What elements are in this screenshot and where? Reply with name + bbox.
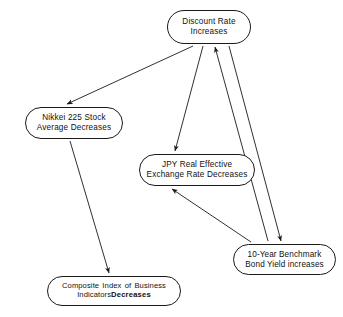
edge-bond-to-discount: [215, 47, 268, 241]
edge-discount-to-jpy: [175, 46, 203, 151]
edge-discount-to-bond: [229, 46, 281, 241]
node-composite-line2: IndicatorsDecreases: [77, 291, 151, 300]
node-composite-index-of-business-indicators[interactable]: Composite Index of Business IndicatorsDe…: [47, 276, 181, 306]
node-composite-line2-bold: Decreases: [111, 290, 151, 299]
node-bond-line1: 10-Year Benchmark: [248, 250, 322, 260]
causal-loop-diagram: Discount Rate Increases Nikkei 225 Stock…: [0, 0, 343, 317]
node-discount-rate[interactable]: Discount Rate Increases: [167, 10, 251, 44]
node-discount-rate-line2: Increases: [191, 27, 228, 37]
edge-nikkei-to-composite: [70, 141, 109, 273]
node-jpy-line1: JPY Real Effective: [162, 160, 232, 170]
node-composite-line2-normal: Indicators: [77, 290, 111, 299]
node-nikkei-225-stock-average[interactable]: Nikkei 225 Stock Average Decreases: [25, 107, 123, 139]
node-jpy-line2: Exchange Rate Decreases: [147, 170, 248, 180]
node-nikkei-line2: Average Decreases: [37, 123, 111, 133]
node-bond-line2: Bond Yield increases: [245, 260, 323, 270]
edge-bond-to-jpy: [172, 189, 251, 242]
node-10-year-benchmark-bond-yield[interactable]: 10-Year Benchmark Bond Yield increases: [233, 244, 336, 275]
node-jpy-real-effective-exchange-rate[interactable]: JPY Real Effective Exchange Rate Decreas…: [139, 154, 255, 186]
node-nikkei-line1: Nikkei 225 Stock: [42, 113, 105, 123]
node-discount-rate-line1: Discount Rate: [182, 17, 235, 27]
edge-discount-to-nikkei: [67, 46, 193, 104]
